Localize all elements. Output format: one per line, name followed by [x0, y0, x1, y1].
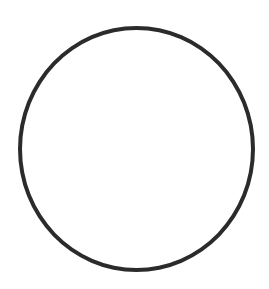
circle-outline — [18, 26, 255, 272]
drawing-canvas — [0, 0, 269, 289]
